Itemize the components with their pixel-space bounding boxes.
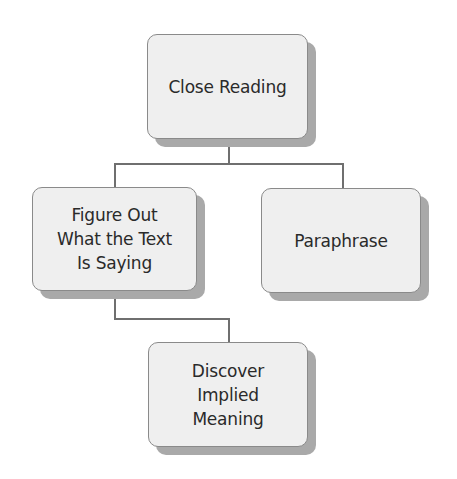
node-discover-implied-meaning: Discover Implied Meaning <box>148 342 308 447</box>
node-paraphrase: Paraphrase <box>261 188 421 293</box>
connector-left-horizontal <box>114 318 229 320</box>
connector-to-bottom <box>228 318 230 342</box>
connector-root-down <box>228 146 230 164</box>
connector-to-left <box>114 163 116 188</box>
node-label: Discover Implied Meaning <box>192 359 264 431</box>
node-close-reading: Close Reading <box>147 34 308 139</box>
node-label: Close Reading <box>168 75 286 99</box>
connector-left-down <box>114 298 116 319</box>
node-label: Figure Out What the Text Is Saying <box>57 203 172 275</box>
connector-root-horizontal <box>114 163 343 165</box>
connector-to-right <box>342 163 344 188</box>
node-figure-out-what-text-is-saying: Figure Out What the Text Is Saying <box>32 187 197 291</box>
node-label: Paraphrase <box>294 229 388 253</box>
